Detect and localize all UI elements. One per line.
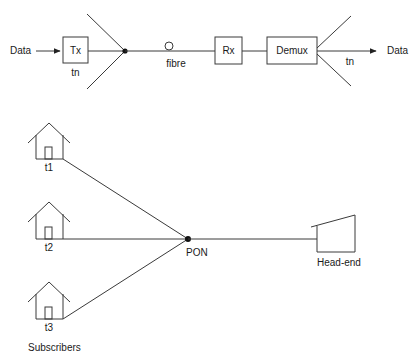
combiner-upper-branch: [87, 14, 125, 51]
subscriber-label-t3: t3: [45, 322, 54, 333]
combiner-lower-branch: [87, 51, 125, 89]
subscriber-label-t2: t2: [45, 242, 54, 253]
fibre-label: fibre: [166, 58, 186, 69]
link-t3-to-pon: [63, 239, 188, 319]
pon-tdm-diagram: Data Tx tn fibre Rx Demux tn Data t1: [0, 0, 420, 364]
subscriber-label-t1: t1: [45, 162, 54, 173]
output-data-label: Data: [387, 45, 409, 56]
input-data-label: Data: [10, 45, 32, 56]
house-roof-icon: [28, 282, 70, 302]
pon-label: PON: [186, 247, 208, 258]
demux-sublabel: tn: [346, 56, 354, 67]
tx-label: Tx: [70, 45, 81, 56]
subscriber-house-t1: t1: [28, 123, 70, 173]
headend-icon: [311, 215, 355, 252]
house-roof-icon: [28, 123, 70, 143]
subscriber-house-t3: t3: [28, 282, 70, 333]
link-t1-to-pon: [63, 159, 188, 239]
demux-upper-branch: [317, 16, 351, 48]
rx-label: Rx: [222, 45, 234, 56]
pon-network: t1 t2 t3 Subscribers PON Head-end: [28, 123, 361, 353]
fibre-coil-icon: [165, 42, 173, 50]
house-door-icon: [45, 147, 52, 159]
house-door-icon: [45, 307, 52, 319]
house-door-icon: [45, 227, 52, 239]
headend-label: Head-end: [317, 257, 361, 268]
tx-sublabel: tn: [71, 67, 79, 78]
subscribers-label: Subscribers: [28, 342, 81, 353]
subscriber-house-t2: t2: [28, 202, 70, 253]
house-roof-icon: [28, 202, 70, 222]
demux-label: Demux: [276, 45, 308, 56]
top-link: Data Tx tn fibre Rx Demux tn Data: [10, 14, 409, 89]
